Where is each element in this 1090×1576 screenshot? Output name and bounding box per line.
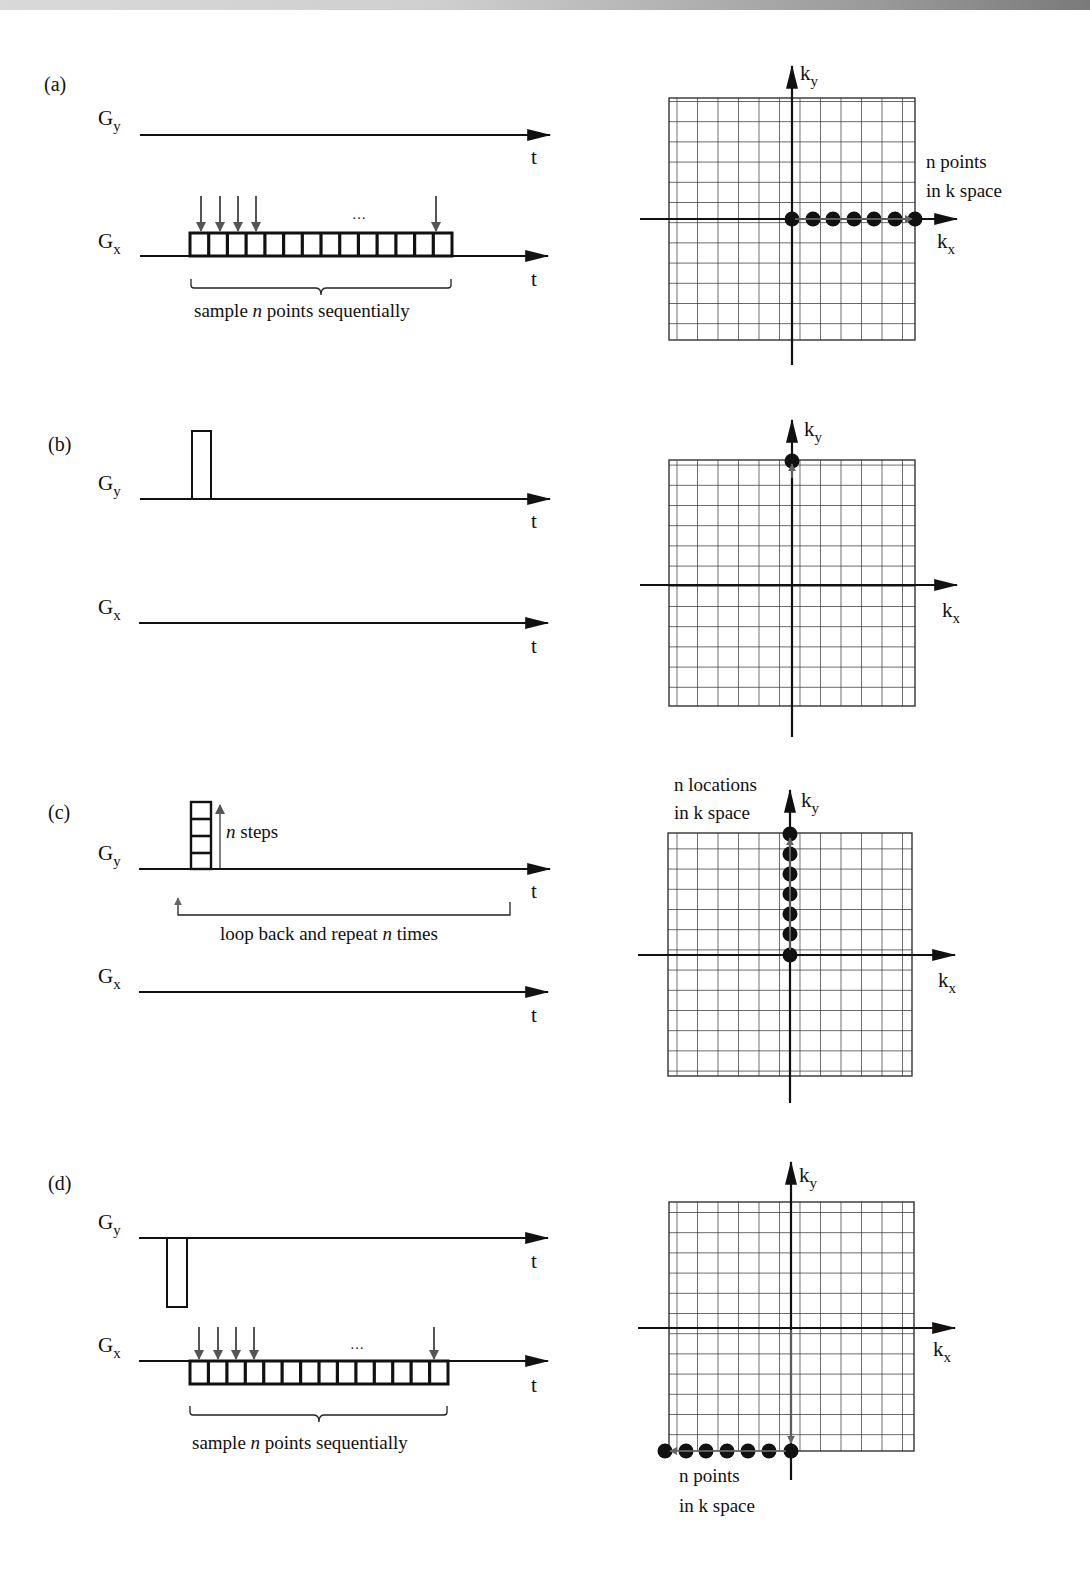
kspace-grid-b: ky kx [640,417,961,737]
svg-text:Gy: Gy [98,841,121,869]
gy-axis-b: Gy t [98,431,550,533]
ellipsis: … [350,1337,364,1352]
svg-text:n locations: n locations [674,774,757,795]
svg-text:n points: n points [679,1465,740,1486]
ellipsis: … [352,207,366,222]
gx-axis-b: Gx t [98,595,548,658]
svg-text:ky: ky [800,61,819,89]
sample-arrows-a [201,196,436,231]
svg-text:Gy: Gy [98,106,121,134]
kspace-grid-c: ky kx n locations in k space [638,774,957,1103]
gy-axis-d: Gy t [98,1210,548,1307]
svg-text:ky: ky [801,788,820,816]
gy-axis-a: Gy t [98,106,550,169]
svg-text:loop back and repeat n times: loop back and repeat n times [220,923,438,944]
svg-text:in k space: in k space [926,180,1002,201]
svg-text:kx: kx [942,598,961,626]
svg-text:n points: n points [926,151,987,172]
svg-text:t: t [531,267,537,291]
svg-text:Gx: Gx [98,964,121,992]
svg-text:t: t [531,634,537,658]
panel-a: (a) Gy t Gx t [44,61,1002,365]
svg-text:t: t [531,1003,537,1027]
svg-text:Gx: Gx [98,229,121,257]
brace-caption-d: sample n points sequentially [192,1432,408,1453]
gx-axis-a: Gx t [98,196,548,321]
gy-phase-steps [191,802,211,869]
gx-readout-block-a [190,233,452,256]
brace-icon [191,279,451,295]
gx-readout-block-d [190,1361,448,1384]
svg-text:t: t [531,879,537,903]
svg-text:in k space: in k space [674,802,750,823]
gy-phase-pulse-negative [167,1238,187,1307]
svg-text:t: t [531,1249,537,1273]
panel-label-d: (d) [48,1172,71,1195]
svg-text:in k space: in k space [679,1495,755,1516]
svg-text:n steps: n steps [226,821,278,842]
svg-text:ky: ky [799,1163,818,1191]
kspace-grid-d: ky kx n points in k space [638,1162,955,1516]
svg-text:kx: kx [938,968,957,996]
loop-back-arrow-icon [178,898,510,915]
panel-b: (b) Gy t Gx t ky kx [48,417,961,737]
gx-axis-d: Gx t [98,1327,548,1453]
svg-text:Gy: Gy [98,471,121,499]
panel-c: (c) Gy n steps t loop back and repeat n … [48,774,957,1103]
gx-axis-c: Gx t [98,964,548,1027]
panel-label-c: (c) [48,801,70,824]
panel-label-a: (a) [44,73,66,96]
sample-arrows-d [199,1327,434,1359]
gy-phase-pulse-positive [192,431,211,499]
svg-text:t: t [531,145,537,169]
gy-axis-c: Gy n steps t loop back and repeat n time… [98,802,550,944]
svg-text:Gx: Gx [98,1333,121,1361]
kspace-grid-a: ky kx n points in k space [640,61,1002,365]
panel-label-b: (b) [48,433,71,456]
svg-text:kx: kx [937,229,956,257]
brace-icon [190,1406,447,1422]
svg-text:Gy: Gy [98,1210,121,1238]
svg-text:t: t [531,1373,537,1397]
brace-caption-a: sample n points sequentially [194,300,410,321]
kspace-figure: (a) Gy t Gx t [0,0,1090,1576]
svg-text:t: t [531,509,537,533]
panel-d: (d) Gy t Gx t [48,1162,955,1516]
svg-text:kx: kx [933,1337,952,1365]
svg-text:Gx: Gx [98,595,121,623]
svg-text:ky: ky [804,417,823,445]
